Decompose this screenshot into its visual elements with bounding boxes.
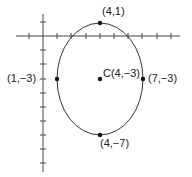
center-point <box>98 77 102 81</box>
right-covertex-point <box>141 77 145 81</box>
top-vertex-label: (4,1) <box>102 6 125 17</box>
graph-canvas <box>0 0 192 177</box>
ellipse-diagram: (4,1) C(4,−3) (1,−3) (7,−3) (4,−7) <box>0 0 192 177</box>
bottom-vertex-label: (4,−7) <box>100 138 129 149</box>
top-vertex-point <box>98 21 102 25</box>
center-label: C(4,−3) <box>103 68 140 79</box>
left-covertex-point <box>55 77 59 81</box>
right-covertex-label: (7,−3) <box>148 73 177 84</box>
left-covertex-label: (1,−3) <box>7 73 36 84</box>
